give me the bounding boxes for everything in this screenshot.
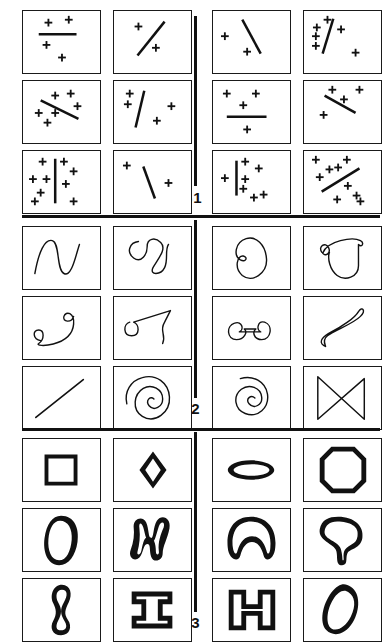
stimulus-cell-63-L5[interactable]	[22, 578, 101, 642]
stimulus-cell-63-R5[interactable]	[212, 578, 291, 642]
stimulus-cell-63-L4[interactable]	[113, 508, 192, 572]
figure-section-62: 62	[0, 218, 392, 428]
stimulus-cell-62-R4[interactable]	[303, 296, 382, 360]
section-61-right-grid	[212, 10, 382, 214]
figure-section-61: 61	[0, 2, 392, 215]
section-62-divider	[194, 220, 197, 398]
stimulus-cell-61-R1[interactable]	[212, 10, 291, 74]
stimulus-cell-63-R4[interactable]	[303, 508, 382, 572]
stimulus-cell-62-R2[interactable]	[303, 226, 382, 290]
stimulus-cell-63-L2[interactable]	[113, 438, 192, 502]
section-62-right-grid	[212, 226, 382, 430]
stimulus-cell-62-L2[interactable]	[113, 226, 192, 290]
stimulus-cell-63-R2[interactable]	[303, 438, 382, 502]
stimulus-cell-61-L2[interactable]	[113, 10, 192, 74]
stimulus-cell-61-L3[interactable]	[22, 80, 101, 144]
stimulus-cell-62-L5[interactable]	[22, 366, 101, 430]
stimulus-cell-62-R6[interactable]	[303, 366, 382, 430]
stimulus-cell-62-L6[interactable]	[113, 366, 192, 430]
figure-page: 61	[0, 0, 392, 644]
stimulus-cell-62-L4[interactable]	[113, 296, 192, 360]
stimulus-cell-61-R3[interactable]	[212, 80, 291, 144]
stimulus-cell-62-R1[interactable]	[212, 226, 291, 290]
section-63-divider	[194, 432, 197, 612]
stimulus-cell-62-R5[interactable]	[212, 366, 291, 430]
stimulus-cell-63-R3[interactable]	[212, 508, 291, 572]
stimulus-cell-61-L5[interactable]	[22, 150, 101, 214]
stimulus-cell-63-L6[interactable]	[113, 578, 192, 642]
stimulus-cell-62-L3[interactable]	[22, 296, 101, 360]
stimulus-cell-61-R4[interactable]	[303, 80, 382, 144]
section-62-left-grid	[22, 226, 192, 430]
stimulus-cell-61-R2[interactable]	[303, 10, 382, 74]
section-61-left-grid	[22, 10, 192, 214]
stimulus-cell-63-R1[interactable]	[212, 438, 291, 502]
section-63-right-grid	[212, 438, 382, 642]
stimulus-cell-62-R3[interactable]	[212, 296, 291, 360]
stimulus-cell-61-R6[interactable]	[303, 150, 382, 214]
stimulus-cell-61-R5[interactable]	[212, 150, 291, 214]
figure-section-63: 63	[0, 430, 392, 642]
stimulus-cell-61-L1[interactable]	[22, 10, 101, 74]
stimulus-cell-61-L6[interactable]	[113, 150, 192, 214]
section-63-left-grid	[22, 438, 192, 642]
stimulus-cell-63-R6[interactable]	[303, 578, 382, 642]
stimulus-cell-63-L1[interactable]	[22, 438, 101, 502]
stimulus-cell-63-L3[interactable]	[22, 508, 101, 572]
section-61-divider	[194, 16, 197, 186]
stimulus-cell-62-L1[interactable]	[22, 226, 101, 290]
stimulus-cell-61-L4[interactable]	[113, 80, 192, 144]
